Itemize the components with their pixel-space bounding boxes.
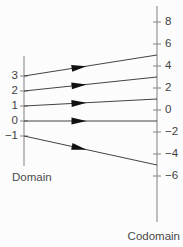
- tick-label: 1: [12, 100, 18, 112]
- arrow-head-icon: [71, 65, 86, 72]
- tick-label: 2: [165, 82, 171, 94]
- tick-label: 0: [12, 115, 18, 127]
- arrow-head-icon: [71, 83, 86, 90]
- function-mapping-figure: 3210−1 86420−2−4−6 Domain Codomain: [0, 0, 183, 247]
- tick-label: 2: [12, 85, 18, 97]
- mapping-line: [24, 55, 157, 76]
- tick-label: 8: [165, 16, 171, 28]
- codomain-axis-group: [153, 6, 161, 222]
- tick-label: 3: [12, 70, 18, 82]
- tick-label: 0: [165, 104, 171, 116]
- tick-label: −4: [165, 148, 178, 160]
- map-1-to-1: [24, 99, 157, 107]
- mapping-arrows-group: [24, 55, 157, 165]
- mapping-line: [24, 99, 157, 106]
- map-3-to-5: [24, 55, 157, 76]
- map-0-to-n1: [24, 118, 157, 125]
- tick-label: −1: [5, 130, 18, 142]
- tick-label: 6: [165, 38, 171, 50]
- tick-label: 4: [165, 60, 171, 72]
- domain-caption: Domain: [12, 172, 52, 184]
- arrow-head-icon: [71, 143, 86, 150]
- arrow-head-icon: [72, 118, 87, 125]
- tick-label: −6: [165, 170, 178, 182]
- codomain-caption: Codomain: [128, 231, 180, 243]
- diagram-canvas: [0, 0, 183, 247]
- map-n1-to-n3: [24, 136, 157, 165]
- mapping-line: [24, 77, 157, 91]
- map-2-to-3: [24, 77, 157, 91]
- mapping-line: [24, 136, 157, 165]
- tick-label: −2: [165, 126, 178, 138]
- arrow-head-icon: [71, 100, 86, 107]
- domain-axis-group: [20, 56, 28, 166]
